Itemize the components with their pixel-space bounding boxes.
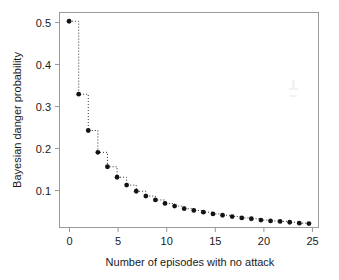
data-point bbox=[163, 201, 168, 206]
y-tick-label-0: 0.1 bbox=[36, 185, 51, 197]
data-point bbox=[201, 210, 206, 215]
scan-artifact bbox=[289, 80, 298, 97]
x-axis-tick-labels: 0 5 10 15 20 25 bbox=[66, 235, 318, 247]
data-point bbox=[278, 219, 283, 224]
data-point bbox=[239, 215, 244, 220]
data-point bbox=[297, 221, 302, 226]
data-point bbox=[86, 128, 91, 133]
data-point bbox=[249, 216, 254, 221]
data-point bbox=[220, 213, 225, 218]
x-tick-label-0: 0 bbox=[66, 235, 72, 247]
x-tick-label-2: 10 bbox=[161, 235, 173, 247]
y-tick-label-1: 0.2 bbox=[36, 143, 51, 155]
data-point bbox=[268, 219, 273, 224]
data-point bbox=[259, 218, 264, 223]
chart-canvas: 0.1 0.2 0.3 0.4 0.5 0 5 10 15 20 25 Numb… bbox=[0, 0, 339, 280]
data-point bbox=[172, 204, 177, 209]
data-point bbox=[134, 189, 139, 194]
plot-frame bbox=[60, 13, 319, 228]
data-points-group bbox=[67, 19, 312, 226]
data-point bbox=[182, 206, 187, 211]
data-point bbox=[76, 92, 81, 97]
y-tick-label-4: 0.5 bbox=[36, 17, 51, 29]
data-point bbox=[115, 175, 120, 180]
data-point bbox=[124, 183, 129, 188]
x-tick-label-1: 5 bbox=[115, 235, 121, 247]
y-tick-label-3: 0.4 bbox=[36, 59, 51, 71]
y-axis-title: Bayesian danger probability bbox=[11, 52, 23, 188]
data-point bbox=[287, 220, 292, 225]
data-point bbox=[95, 150, 100, 155]
data-point bbox=[153, 198, 158, 203]
data-point bbox=[307, 221, 312, 226]
chart-figure: 0.1 0.2 0.3 0.4 0.5 0 5 10 15 20 25 Numb… bbox=[0, 0, 339, 280]
x-tick-label-4: 20 bbox=[258, 235, 270, 247]
data-point bbox=[230, 214, 235, 219]
y-tick-label-2: 0.3 bbox=[36, 101, 51, 113]
data-point bbox=[211, 212, 216, 217]
y-axis-ticks bbox=[55, 23, 60, 191]
y-axis-tick-labels: 0.1 0.2 0.3 0.4 0.5 bbox=[36, 17, 51, 197]
x-axis-title: Number of episodes with no attack bbox=[106, 256, 275, 268]
x-tick-label-3: 15 bbox=[209, 235, 221, 247]
data-point bbox=[105, 164, 110, 169]
data-point bbox=[67, 19, 72, 24]
data-point bbox=[191, 208, 196, 213]
data-step-line bbox=[69, 21, 309, 223]
data-point bbox=[143, 194, 148, 199]
x-axis-ticks bbox=[70, 228, 313, 233]
x-tick-label-5: 25 bbox=[306, 235, 318, 247]
